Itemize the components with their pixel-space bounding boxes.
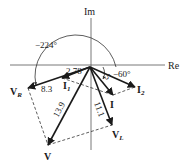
label-i2: I2 bbox=[137, 84, 145, 97]
angle-label-224: −224° bbox=[35, 40, 58, 50]
magnitude-vr: 8.3 bbox=[41, 84, 53, 94]
phasor-labels: VR 8.3 V 13.9 VL 11.1 I 5 I1 2.78 I2 bbox=[10, 66, 145, 162]
label-v: V bbox=[44, 151, 52, 162]
dashed-i-to-i2 bbox=[113, 87, 135, 95]
label-vl: VL bbox=[112, 129, 124, 142]
label-vr: VR bbox=[10, 86, 22, 99]
magnitude-v: 13.9 bbox=[51, 100, 67, 119]
label-i1: I1 bbox=[63, 80, 70, 93]
angle-arcs: −224° −60° bbox=[35, 35, 131, 85]
label-i: I bbox=[110, 99, 114, 110]
magnitude-vl: 11.1 bbox=[92, 100, 107, 118]
imag-axis-label: Im bbox=[84, 6, 95, 17]
magnitude-i1: 2.78 bbox=[66, 66, 82, 76]
dashed-vr-to-v bbox=[28, 88, 48, 145]
phasor-diagram: Re Im −224° −60° VR 8.3 V 13.9 V bbox=[0, 0, 191, 165]
angle-label-60: −60° bbox=[113, 69, 131, 79]
real-axis-label: Re bbox=[168, 60, 180, 71]
